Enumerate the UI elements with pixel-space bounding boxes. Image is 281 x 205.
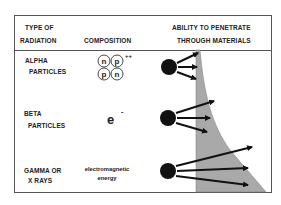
beta-electron-symbol: e (107, 112, 114, 127)
nucleon-1: n (102, 57, 107, 66)
alpha-particle-icon (161, 59, 177, 75)
beta-particle-icon (160, 110, 176, 126)
nucleon-2: p (115, 57, 120, 66)
alpha-arrows (177, 53, 198, 79)
gamma-particle-icon (160, 163, 176, 179)
penetration-diagram: n p p n ++ e - electromagnetic energy (0, 0, 281, 205)
beta-charge: - (121, 108, 124, 115)
alpha-charge: ++ (125, 53, 133, 59)
nucleon-3: p (102, 70, 107, 79)
gamma-composition-line2: energy (97, 175, 117, 181)
nucleon-4: n (115, 70, 120, 79)
gamma-composition-line1: electromagnetic (85, 166, 130, 172)
